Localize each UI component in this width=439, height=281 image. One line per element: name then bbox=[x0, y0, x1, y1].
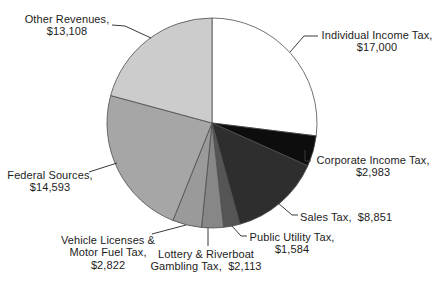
label-text: Motor Fuel Tax, bbox=[52, 246, 164, 258]
label-value: $2,983 bbox=[308, 166, 438, 178]
label-text: Individual Income Tax, bbox=[316, 29, 438, 41]
label-text: Sales Tax, $8,851 bbox=[300, 211, 392, 223]
label-other-revenues: Other Revenues, $13,108 bbox=[12, 13, 122, 38]
label-value: $17,000 bbox=[316, 41, 438, 53]
label-sales-tax: Sales Tax, $8,851 bbox=[300, 211, 392, 223]
label-vehicle-motor-fuel-tax: Vehicle Licenses & Motor Fuel Tax, $2,82… bbox=[52, 234, 164, 271]
pie-chart-figure: Other Revenues, $13,108 Individual Incom… bbox=[0, 0, 439, 281]
leader-sales-tax bbox=[278, 203, 298, 215]
label-text: Vehicle Licenses & bbox=[52, 234, 164, 246]
label-value: $13,108 bbox=[12, 25, 122, 37]
label-text: Federal Sources, bbox=[2, 169, 98, 181]
pie-slice-individual-income-tax bbox=[212, 18, 317, 136]
label-value: $14,593 bbox=[2, 181, 98, 193]
leader-individual-income-tax bbox=[290, 36, 318, 52]
label-federal-sources: Federal Sources, $14,593 bbox=[2, 169, 98, 194]
label-corporate-income-tax: Corporate Income Tax, $2,983 bbox=[308, 154, 438, 179]
pie-slices bbox=[107, 18, 317, 228]
label-individual-income-tax: Individual Income Tax, $17,000 bbox=[316, 29, 438, 54]
label-text: Other Revenues, bbox=[12, 13, 122, 25]
label-value: $2,822 bbox=[52, 259, 164, 271]
label-text: Corporate Income Tax, bbox=[308, 154, 438, 166]
label-text: Public Utility Tax, bbox=[237, 231, 347, 243]
leader-vehicle-motor-fuel-tax bbox=[152, 225, 186, 234]
